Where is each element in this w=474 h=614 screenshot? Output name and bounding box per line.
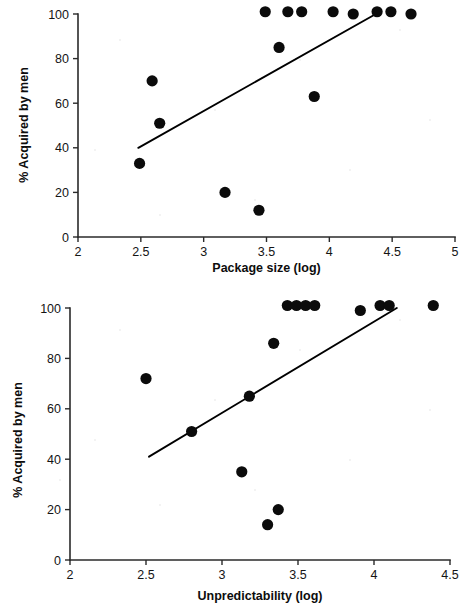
- paper-speck-7: [94, 149, 96, 151]
- data-point: [296, 6, 307, 17]
- x-tick-label-4.5: 4.5: [383, 245, 400, 259]
- y-tick-label-100: 100: [40, 302, 61, 316]
- y-tick-label-0: 0: [62, 231, 69, 245]
- paper-speck-0: [119, 39, 121, 41]
- x-tick-label-2.5: 2.5: [137, 568, 154, 582]
- paper-speck-2: [214, 399, 216, 401]
- x-tick-label-2.5: 2.5: [132, 245, 149, 259]
- x-tick-label-4: 4: [326, 245, 333, 259]
- y-axis-title: % Acquired by men: [11, 382, 25, 498]
- regression-trendline: [138, 14, 376, 148]
- paper-speck-4: [399, 319, 401, 321]
- x-tick-label-5: 5: [452, 245, 459, 259]
- data-point: [260, 6, 271, 17]
- x-tick-label-3.5: 3.5: [289, 568, 306, 582]
- y-tick-label-60: 60: [47, 402, 61, 416]
- scatter-plot-package-size: 02040608010022.533.544.55Package size (l…: [0, 0, 474, 290]
- x-tick-label-3: 3: [200, 245, 207, 259]
- data-point: [355, 305, 366, 316]
- data-point: [268, 338, 279, 349]
- scatter-plot-unpredictability: 02040608010022.533.544.5Unpredictability…: [0, 290, 474, 614]
- data-point: [134, 158, 145, 169]
- data-point: [244, 391, 255, 402]
- data-point: [236, 466, 247, 477]
- regression-trendline: [149, 308, 397, 457]
- paper-speck-4: [399, 29, 401, 31]
- paper-speck-6: [349, 169, 351, 171]
- data-point: [384, 300, 395, 311]
- data-point: [273, 42, 284, 53]
- data-point: [385, 6, 396, 17]
- y-tick-label-80: 80: [55, 52, 69, 66]
- data-point: [405, 8, 416, 19]
- data-point: [262, 519, 273, 530]
- y-tick-label-40: 40: [55, 141, 69, 155]
- x-tick-label-4.5: 4.5: [441, 568, 458, 582]
- y-tick-label-40: 40: [47, 453, 61, 467]
- data-point: [253, 205, 264, 216]
- y-tick-label-20: 20: [47, 503, 61, 517]
- x-tick-label-2: 2: [75, 245, 82, 259]
- data-point: [186, 426, 197, 437]
- data-point: [273, 504, 284, 515]
- data-point: [348, 8, 359, 19]
- x-axis-title: Package size (log): [212, 261, 320, 275]
- x-tick-label-4: 4: [371, 568, 378, 582]
- y-tick-label-20: 20: [55, 186, 69, 200]
- x-axis-title: Unpredictability (log): [198, 589, 323, 603]
- x-tick-label-2: 2: [67, 568, 74, 582]
- paper-speck-8: [254, 489, 256, 491]
- y-tick-label-60: 60: [55, 97, 69, 111]
- paper-speck-5: [159, 214, 161, 216]
- y-tick-label-80: 80: [47, 352, 61, 366]
- paper-speck-3: [59, 479, 61, 481]
- paper-speck-0: [119, 329, 121, 331]
- data-point: [282, 6, 293, 17]
- data-point: [147, 75, 158, 86]
- paper-speck-7: [94, 439, 96, 441]
- paper-speck-6: [349, 459, 351, 461]
- data-point: [371, 6, 382, 17]
- paper-speck-5: [159, 504, 161, 506]
- paper-speck-9: [429, 409, 431, 411]
- y-tick-label-0: 0: [54, 554, 61, 568]
- data-point: [219, 187, 230, 198]
- x-tick-label-3: 3: [219, 568, 226, 582]
- data-point: [428, 300, 439, 311]
- y-tick-label-100: 100: [48, 8, 69, 22]
- data-point: [328, 6, 339, 17]
- paper-speck-8: [254, 199, 256, 201]
- paper-speck-1: [299, 59, 301, 61]
- paper-speck-9: [429, 119, 431, 121]
- data-point: [140, 373, 151, 384]
- data-point: [154, 118, 165, 129]
- paper-speck-2: [214, 109, 216, 111]
- data-point: [309, 91, 320, 102]
- data-point: [309, 300, 320, 311]
- paper-speck-1: [299, 349, 301, 351]
- unpredictability-plot-canvas: 02040608010022.533.544.5Unpredictability…: [0, 290, 474, 614]
- y-axis-title: % Acquired by men: [17, 67, 31, 183]
- x-tick-label-3.5: 3.5: [258, 245, 275, 259]
- package-size-plot-canvas: 02040608010022.533.544.55Package size (l…: [0, 0, 474, 290]
